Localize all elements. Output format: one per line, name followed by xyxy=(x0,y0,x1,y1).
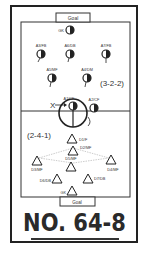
top-goal-label: Goal xyxy=(68,15,79,21)
attacker-label: A6/DB xyxy=(65,44,76,48)
defender-label: D1/F xyxy=(79,138,88,142)
drill-number: NO. 64-8 xyxy=(0,209,149,237)
attacker-label: A3/FB xyxy=(36,44,47,48)
defender-label: GK xyxy=(61,191,67,195)
attacker-label: A4/DM xyxy=(81,68,93,72)
defender-label: D7/DB xyxy=(94,177,106,181)
defense-formation-label: (2-4-1) xyxy=(27,131,51,140)
attacker-label: A2/CF xyxy=(89,98,100,102)
attacker-label: A1/CF xyxy=(64,97,75,101)
defender-label: D5/MF xyxy=(65,157,77,161)
defender-label: D2/MF xyxy=(80,146,92,150)
defender-label: D4/MF xyxy=(107,168,119,172)
defender-label: D3/MF xyxy=(31,168,43,172)
defender-label: D6/DB xyxy=(40,179,52,183)
ball-marker: X xyxy=(50,101,56,110)
attack-formation-label: (3-2-2) xyxy=(100,79,124,88)
attacker-label: A5/MF xyxy=(46,68,58,72)
bottom-goal-label: Goal xyxy=(72,200,82,205)
attacker-label: A7/FB xyxy=(101,44,112,48)
attacker-label: GK xyxy=(58,28,64,33)
title-underline xyxy=(31,238,119,240)
